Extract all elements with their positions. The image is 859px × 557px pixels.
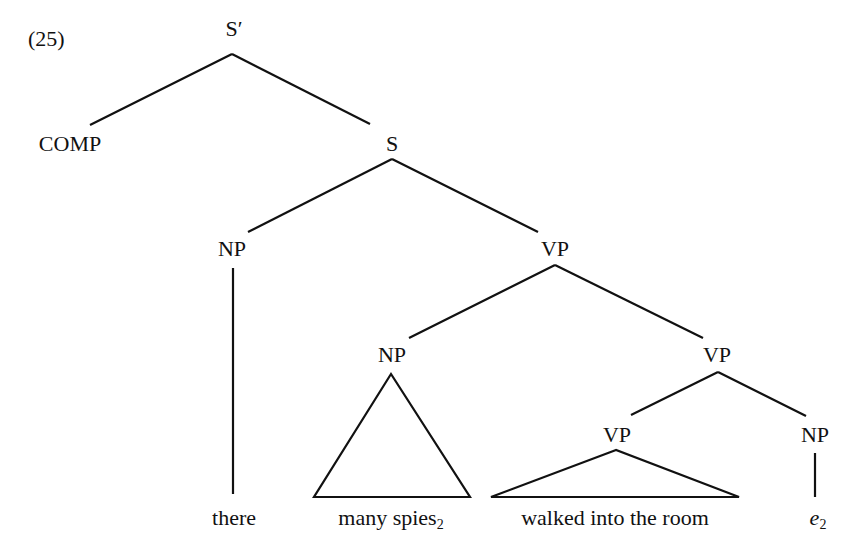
node-s-bar: S′ [225,18,242,40]
leaf-trace: e2 [810,507,827,529]
leaf-many-spies-index: 2 [437,517,444,532]
node-comp: COMP [39,133,101,155]
tree-edges [0,0,859,557]
node-np-subject: NP [218,238,246,260]
leaf-many-spies-text: many spies [338,505,436,530]
leaf-many-spies: many spies2 [338,507,443,529]
node-s: S [386,133,398,155]
node-vp-mid: VP [703,344,731,366]
leaf-trace-index: 2 [819,517,826,532]
node-np-trace: NP [801,424,829,446]
node-np-object: NP [378,344,406,366]
leaf-trace-text: e [810,505,820,530]
leaf-there: there [212,507,256,529]
leaf-walked-into-the-room: walked into the room [521,507,709,529]
node-vp-top: VP [541,238,569,260]
node-vp-low: VP [603,424,631,446]
